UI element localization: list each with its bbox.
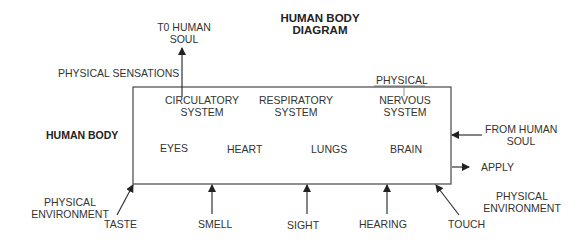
from-human-soul-label: FROM HUMAN SOUL xyxy=(485,123,557,147)
circulatory-system-label: CIRCULATORY SYSTEM xyxy=(162,94,242,118)
respiratory-system-label: RESPIRATORY SYSTEM xyxy=(256,94,336,118)
organ-lungs: LUNGS xyxy=(311,143,347,155)
touch-arrow xyxy=(436,185,459,215)
organ-eyes: EYES xyxy=(160,142,188,154)
human-body-diagram: HUMAN BODY DIAGRAM T0 HUMAN SOUL PHYSICA… xyxy=(0,0,588,242)
organ-heart: HEART xyxy=(227,143,262,155)
organ-brain: BRAIN xyxy=(390,143,422,155)
sense-sight: SIGHT xyxy=(287,219,319,231)
sense-taste: TASTE xyxy=(104,218,137,230)
physical-environment-right-label: PHYSICAL ENVIRONMENT xyxy=(480,190,564,214)
nervous-system-label: NERVOUS SYSTEM xyxy=(375,94,435,118)
apply-label: APPLY xyxy=(481,161,514,173)
to-human-soul-label: T0 HUMAN SOUL xyxy=(155,21,213,45)
diagram-title: HUMAN BODY DIAGRAM xyxy=(275,12,365,36)
physical-label: PHYSICAL xyxy=(376,74,428,86)
taste-arrow xyxy=(117,185,133,215)
sense-smell: SMELL xyxy=(198,218,232,230)
human-body-label: HUMAN BODY xyxy=(46,129,118,141)
physical-sensations-label: PHYSICAL SENSATIONS xyxy=(58,67,179,79)
sense-hearing: HEARING xyxy=(359,218,407,230)
sense-touch: TOUCH xyxy=(448,218,485,230)
physical-environment-left-label: PHYSICAL ENVIRONMENT xyxy=(28,196,112,220)
